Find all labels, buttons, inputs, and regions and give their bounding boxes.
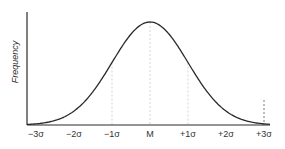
x-tick-label: +1σ — [180, 129, 196, 139]
x-tick-label: −3σ — [28, 129, 44, 139]
normal-distribution-chart: −3σ−2σ−1σM+1σ+2σ+3σ Frequency — [0, 0, 285, 149]
y-axis-label: Frequency — [10, 40, 20, 83]
bell-curve — [27, 22, 270, 124]
x-tick-label: +2σ — [218, 129, 234, 139]
x-tick-labels: −3σ−2σ−1σM+1σ+2σ+3σ — [28, 129, 272, 139]
x-tick-label: −2σ — [66, 129, 82, 139]
x-tick-label: −1σ — [104, 129, 120, 139]
x-tick-label: +3σ — [256, 129, 272, 139]
sigma-guide-lines — [112, 22, 264, 125]
x-tick-label: M — [146, 129, 154, 139]
